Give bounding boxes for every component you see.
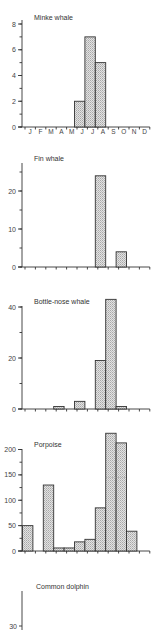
bar-nov [127,531,137,551]
seasonal-cetacean-sightings-figure: Minke whale 02468JFMAMJJASOND Fin whale … [0,0,152,630]
x-tick-label: M [48,128,53,135]
chart-title: Common dolphin [36,583,89,591]
x-tick-label: N [132,128,137,135]
chart-minke-whale: Minke whale 02468JFMAMJJASOND [12,14,150,135]
bar-jul [85,37,95,127]
bar-jul [85,539,95,551]
y-tick-label: 0 [12,406,16,413]
bar-sep [106,433,116,551]
bar-aug [95,508,105,551]
x-tick-label: S [111,128,116,135]
chart-fin-whale: Fin whale 01020 [8,155,150,271]
y-tick-label: 200 [4,446,16,453]
y-tick-label: 150 [4,471,16,478]
y-tick-label: 8 [12,21,16,28]
x-tick-label: J [91,128,94,135]
y-tick-label: 100 [4,497,16,504]
y-tick-label: 0 [12,264,16,271]
bar-jun [75,542,85,551]
bar-jun [75,101,85,127]
y-tick-label: 50 [8,522,16,529]
bar-aug [95,63,105,127]
chart-title: Minke whale [34,14,73,21]
bar-oct [116,406,126,409]
chart-title: Bottle-nose whale [34,298,90,305]
bar-apr [54,406,64,409]
x-tick-label: A [101,128,106,135]
y-tick-label: 4 [12,72,16,79]
y-tick-label: 40 [8,304,16,311]
bar-jun [75,401,85,409]
x-tick-label: D [142,128,147,135]
bar-sep [106,299,116,409]
bar-apr [54,548,64,551]
y-tick-label: 2 [12,98,16,105]
bar-jan [23,526,33,551]
x-tick-label: J [81,128,84,135]
x-tick-label: O [121,128,126,135]
x-tick-label: A [59,128,64,135]
y-tick-label: 6 [12,46,16,53]
y-tick-label: 30 [9,623,17,630]
bar-oct [116,443,126,551]
y-tick-label: 20 [8,188,16,195]
chart-title: Porpoise [34,441,62,449]
y-tick-label: 0 [12,124,16,131]
chart-bottle-nose-whale: Bottle-nose whale 02040 [8,298,150,413]
chart-title: Fin whale [34,155,64,162]
chart-common-dolphin: Common dolphin 30 [9,583,89,630]
x-tick-label: F [39,128,43,135]
bar-may [64,548,74,551]
bar-aug [95,176,105,267]
bar-mar [43,485,53,551]
chart-porpoise: Porpoise 050100150200 [4,433,149,554]
y-tick-label: 20 [8,355,16,362]
bar-oct [116,252,126,267]
bar-aug [95,361,105,409]
y-tick-label: 0 [12,548,16,555]
x-tick-label: J [29,128,32,135]
x-tick-label: M [69,128,74,135]
y-tick-label: 10 [8,226,16,233]
